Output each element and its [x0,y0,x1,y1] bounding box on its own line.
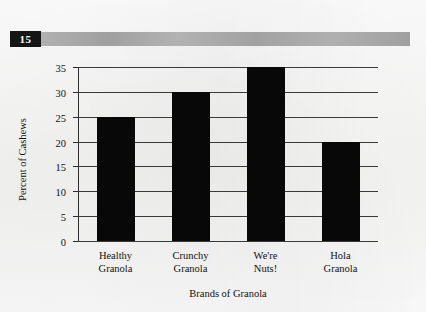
category-label-line: Hola [291,249,391,262]
y-axis-tick: 20 [73,142,78,143]
gridline [78,241,378,242]
bar [172,92,210,241]
bar [97,117,135,241]
y-axis-tick-label: 35 [56,63,67,74]
bar [247,67,285,241]
plot-area: 05101520253035 HealthyGranolaCrunchyGran… [78,67,378,241]
y-axis-tick: 15 [73,166,78,167]
x-axis-title: Brands of Granola [78,288,378,299]
y-axis-tick: 10 [73,191,78,192]
y-axis-title: Percent of Cashews [17,95,28,225]
bar-chart: Percent of Cashews 05101520253035 Health… [0,0,426,312]
y-axis-tick-label: 0 [61,237,66,248]
y-axis-tick-label: 20 [56,137,67,148]
category-label-line: Granola [291,262,391,275]
y-axis-tick-label: 5 [61,212,66,223]
bar [322,142,360,241]
y-axis-tick: 5 [73,216,78,217]
y-axis-tick: 30 [73,92,78,93]
y-axis-tick: 25 [73,117,78,118]
y-axis-line [78,67,79,241]
x-axis-category-label: HolaGranola [291,249,391,275]
y-axis-tick: 35 [73,67,78,68]
y-axis-tick-label: 15 [56,162,67,173]
y-axis-tick-label: 10 [56,187,67,198]
y-axis-tick: 0 [73,241,78,242]
y-axis-tick-label: 30 [56,87,67,98]
gridline [78,92,378,93]
y-axis-tick-label: 25 [56,112,67,123]
gridline [78,67,378,68]
